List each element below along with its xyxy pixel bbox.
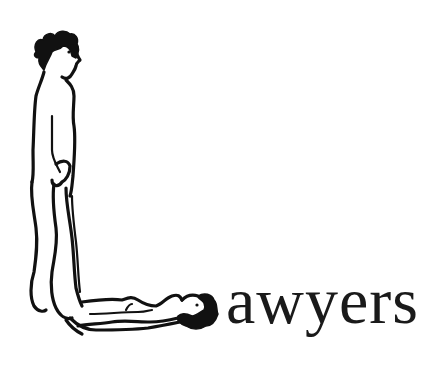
standing-figure [31, 31, 82, 318]
illustrated-title: awyers [0, 0, 440, 379]
title-word-remainder: awyers [226, 268, 419, 334]
lying-figure [66, 294, 218, 334]
